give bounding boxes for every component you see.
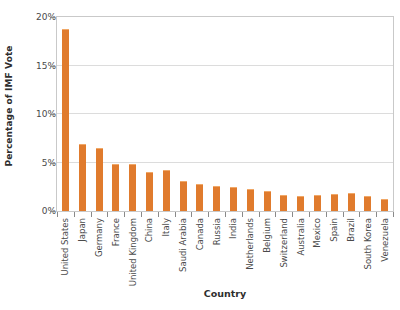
y-axis-tick-label: 0%: [8, 207, 56, 216]
bar: [112, 164, 119, 211]
bar: [129, 164, 136, 211]
x-axis-category-label: Russia: [208, 218, 225, 288]
x-axis-tick-mark: [191, 212, 192, 217]
x-axis-category-label: Australia: [292, 218, 309, 288]
x-axis-category-label: Belgium: [259, 218, 276, 288]
x-axis-tick-mark: [376, 212, 377, 217]
x-axis-category-label-text: Canada: [196, 218, 205, 250]
x-axis-category-label-text: France: [112, 218, 121, 246]
x-axis-category-label: Canada: [191, 218, 208, 288]
bar: [314, 195, 321, 211]
x-axis-category-label-text: Germany: [95, 218, 104, 257]
y-axis-tick-mark: [50, 211, 55, 212]
y-axis-tick-mark: [50, 17, 55, 18]
x-axis-category-label: Italy: [158, 218, 175, 288]
x-axis-tick-mark: [124, 212, 125, 217]
x-axis-category-label: Brazil: [343, 218, 360, 288]
bar: [348, 193, 355, 211]
bar: [364, 196, 371, 211]
x-axis-tick-mark: [259, 212, 260, 217]
x-axis-category-label: Netherlands: [242, 218, 259, 288]
x-axis-category-label-text: Russia: [212, 218, 221, 245]
x-axis-category-label-text: Netherlands: [246, 218, 255, 270]
x-axis-tick-mark: [326, 212, 327, 217]
x-axis-tick-mark: [359, 212, 360, 217]
x-axis-tick-mark: [175, 212, 176, 217]
x-axis-category-label: China: [141, 218, 158, 288]
bar-chart-figure: Percentage of IMF Vote 0%5%10%15%20% Uni…: [0, 0, 400, 310]
bar: [196, 184, 203, 211]
x-axis-category-label: Switzerland: [275, 218, 292, 288]
y-axis-tick-label: 5%: [8, 158, 56, 167]
bar: [264, 191, 271, 211]
x-axis-category-label-text: India: [229, 218, 238, 239]
x-axis-category-label-text: Venezuela: [380, 218, 389, 262]
bar: [180, 181, 187, 211]
x-axis-category-label-text: Japan: [78, 218, 87, 242]
x-axis-category-label: Spain: [326, 218, 343, 288]
x-axis-category-label-text: Switzerland: [280, 218, 289, 268]
y-axis-tick-mark: [50, 114, 55, 115]
x-axis-tick-mark: [107, 212, 108, 217]
x-axis-tick-mark: [242, 212, 243, 217]
y-axis-tick-label: 15%: [8, 61, 56, 70]
x-axis-category-label-text: Mexico: [313, 218, 322, 248]
bar: [230, 187, 237, 211]
x-axis-tick-mark: [91, 212, 92, 217]
bar: [297, 196, 304, 211]
x-axis-category-label: United States: [57, 218, 74, 288]
x-axis-category-label: Mexico: [309, 218, 326, 288]
y-axis-tick-label: 10%: [8, 110, 56, 119]
x-axis-category-label: South Korea: [359, 218, 376, 288]
x-axis-tick-mark: [393, 212, 394, 217]
x-axis-tick-mark: [74, 212, 75, 217]
x-axis-category-label-text: Saudi Arabia: [179, 218, 188, 272]
bar: [381, 199, 388, 211]
x-axis-category-label: United Kingdom: [124, 218, 141, 288]
x-axis-category-label: Saudi Arabia: [175, 218, 192, 288]
y-axis-tick-mark: [50, 66, 55, 67]
x-axis-tick-mark: [275, 212, 276, 217]
x-axis-tick-mark: [208, 212, 209, 217]
x-axis-tick-mark: [57, 212, 58, 217]
x-axis-category-label: Germany: [91, 218, 108, 288]
x-axis-title: Country: [56, 288, 394, 299]
x-axis-category-label: France: [107, 218, 124, 288]
bar-series: [57, 17, 393, 211]
x-axis-category-label: India: [225, 218, 242, 288]
x-axis-category-label-text: Spain: [330, 218, 339, 242]
x-axis-category-label-text: United States: [61, 218, 70, 276]
bar: [96, 148, 103, 211]
x-axis-tick-mark: [309, 212, 310, 217]
bar: [146, 172, 153, 211]
x-axis-tick-mark: [158, 212, 159, 217]
x-axis-tick-mark: [141, 212, 142, 217]
bar: [213, 186, 220, 211]
plot-surface: [57, 17, 393, 211]
x-axis-category-label: Japan: [74, 218, 91, 288]
x-axis-category-label-text: United Kingdom: [128, 218, 137, 286]
bar: [79, 144, 86, 211]
y-axis-tick-mark: [50, 163, 55, 164]
y-axis-tick-label: 20%: [8, 13, 56, 22]
x-axis-category-label-text: Belgium: [263, 218, 272, 253]
x-axis-category-label-text: South Korea: [364, 218, 373, 270]
bar: [247, 189, 254, 211]
y-axis-ticks: 0%5%10%15%20%: [0, 0, 56, 228]
x-axis-tick-mark: [292, 212, 293, 217]
x-axis-tick-mark: [343, 212, 344, 217]
x-axis-category-label-text: Brazil: [347, 218, 356, 242]
plot-area: [56, 16, 394, 212]
bar: [331, 194, 338, 211]
bar: [62, 29, 69, 211]
x-axis-category-label-text: China: [145, 218, 154, 242]
bar: [280, 195, 287, 211]
x-axis-tick-mark: [225, 212, 226, 217]
x-axis-category-labels: United StatesJapanGermanyFranceUnited Ki…: [56, 218, 394, 288]
bar: [163, 170, 170, 211]
x-axis-category-label-text: Italy: [162, 218, 171, 236]
x-axis-category-label: Venezuela: [376, 218, 393, 288]
x-axis-category-label-text: Australia: [296, 218, 305, 256]
